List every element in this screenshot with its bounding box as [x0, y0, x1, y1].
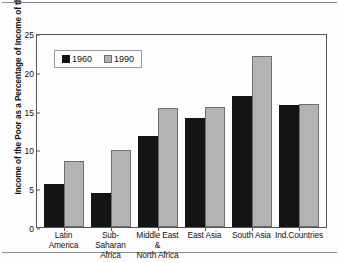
bar-1990[interactable]: [252, 56, 272, 227]
x-axis-category-label: Ind.Countries: [275, 230, 323, 260]
y-tick-label: 5: [29, 185, 34, 195]
y-tick-label: 20: [25, 69, 34, 79]
bar-1990[interactable]: [158, 108, 178, 227]
chart-figure: Income of the Poor as a Percentage of In…: [0, 0, 339, 263]
legend-item-1960: 1960: [62, 54, 92, 64]
legend-swatch-1990-icon: [104, 55, 112, 63]
chart-legend: 1960 1990: [54, 50, 142, 68]
figure-top-rule: [2, 2, 337, 3]
bar-1990[interactable]: [299, 104, 319, 227]
x-axis-category-label: Middle East &North Africa: [134, 230, 181, 260]
bar-group: [181, 35, 228, 227]
bar-1990[interactable]: [205, 107, 225, 227]
bar-1990[interactable]: [111, 150, 131, 227]
bar-group: [275, 35, 322, 227]
legend-item-1990: 1990: [104, 54, 134, 64]
bar-1990[interactable]: [64, 161, 84, 227]
y-tick-label: 10: [25, 146, 34, 156]
bar-1960[interactable]: [185, 118, 205, 227]
bar-group: [228, 35, 275, 227]
bar-1960[interactable]: [232, 96, 252, 227]
x-axis-category-label: Latin America: [40, 230, 87, 260]
y-tick-label: 15: [25, 108, 34, 118]
legend-label-1990: 1990: [114, 54, 134, 64]
legend-swatch-1960-icon: [62, 55, 70, 63]
x-axis-labels: Latin AmericaSub-SaharanAfricaMiddle Eas…: [36, 230, 327, 260]
bar-1960[interactable]: [138, 136, 158, 227]
x-axis-category-label: South Asia: [228, 230, 275, 260]
bar-1960[interactable]: [44, 184, 64, 227]
y-axis-title: Income of the Poor as a Percentage of In…: [14, 0, 23, 195]
x-axis-category-label: East Asia: [181, 230, 228, 260]
legend-label-1960: 1960: [72, 54, 92, 64]
bar-1960[interactable]: [279, 105, 299, 227]
y-tick-label: 25: [25, 30, 34, 40]
x-axis-category-label: Sub-SaharanAfrica: [87, 230, 134, 260]
y-tick-label: 0: [29, 224, 34, 234]
bar-1960[interactable]: [91, 193, 111, 227]
